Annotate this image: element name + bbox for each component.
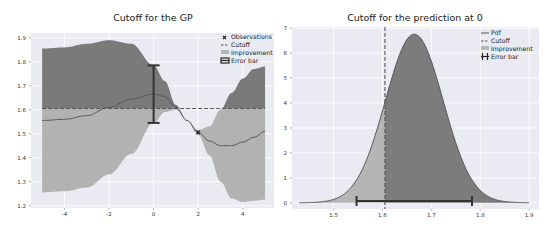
y-tick-label: 3: [284, 125, 288, 131]
legend-label: Observations: [231, 33, 272, 40]
y-tick-label: 2: [284, 150, 288, 156]
y-tick-label: 6: [284, 50, 288, 56]
y-tick-label: 1.3: [17, 179, 26, 185]
x-tick-label: 1.9: [525, 212, 534, 218]
x-tick-label: 1.6: [378, 212, 387, 218]
y-tick-label: 1.5: [17, 131, 26, 137]
gp-cutoff-chart: Cutoff for the GP -4-20241.21.31.41.51.6…: [17, 12, 274, 217]
x-tick-label: 1.8: [476, 212, 485, 218]
legend-label: Error bar: [231, 57, 259, 64]
legend-label: Cutoff: [491, 37, 510, 44]
y-tick-label: 4: [284, 100, 288, 106]
legend-label: Cutoff: [231, 41, 250, 48]
y-tick-label: 1.4: [17, 155, 26, 161]
x-tick-label: 1.7: [427, 212, 436, 218]
x-tick-label: 0: [152, 211, 156, 217]
y-tick-label: 1.9: [17, 35, 26, 41]
legend-label: Error bar: [491, 53, 519, 60]
y-tick-label: 7: [284, 25, 288, 31]
x-tick-label: 2: [196, 211, 200, 217]
improvement-legend-icon: [221, 50, 229, 54]
x-tick-label: -2: [106, 211, 111, 217]
chart-title: Cutoff for the GP: [113, 12, 193, 23]
figure: Cutoff for the GP -4-20241.21.31.41.51.6…: [0, 0, 559, 233]
y-tick-label: 1.2: [17, 203, 26, 209]
y-tick-label: 1.8: [17, 59, 26, 65]
x-tick-label: 1.5: [329, 212, 338, 218]
x-tick-label: 4: [241, 211, 245, 217]
legend-label: Improvement: [491, 45, 533, 53]
x-tick-label: -4: [62, 211, 68, 217]
chart-title: Cutoff for the prediction at 0: [347, 12, 483, 23]
y-tick-label: 5: [284, 75, 288, 81]
prediction-cutoff-chart: Cutoff for the prediction at 0 1.51.61.7…: [284, 12, 540, 218]
y-tick-label: 1.7: [17, 83, 26, 89]
y-tick-label: 1.6: [17, 107, 26, 113]
legend-label: Pdf: [491, 29, 502, 36]
y-tick-label: 0: [284, 200, 288, 206]
improvement-legend-icon: [481, 46, 489, 50]
y-tick-label: 1: [284, 175, 288, 181]
legend-label: Improvement: [231, 49, 273, 57]
